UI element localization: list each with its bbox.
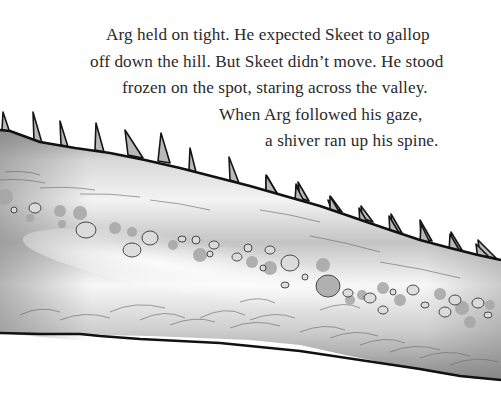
book-page: Arg held on tight. He expected Skeet to … [0,0,501,400]
story-line-2: off down the hill. But Skeet didn’t move… [90,49,443,76]
story-line-3: frozen on the spot, staring across the v… [122,75,428,102]
story-line-1: Arg held on tight. He expected Skeet to … [106,22,430,49]
story-line-4: When Arg followed his gaze, [219,102,422,129]
story-line-5: a shiver ran up his spine. [265,128,439,155]
